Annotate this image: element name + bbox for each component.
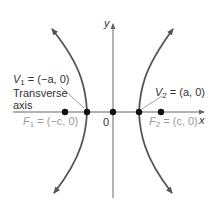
transverse-axis-label-line2: axis <box>13 99 33 111</box>
f1-label: F1 = (−c, 0) <box>23 115 78 129</box>
origin-label: 0 <box>103 116 109 128</box>
vertex-v1-point <box>84 109 90 115</box>
hyperbola-left-branch-upper <box>52 29 87 112</box>
x-axis-label: x <box>198 114 205 126</box>
v2-label: V2 = (a, 0) <box>155 86 205 100</box>
y-axis-label: y <box>103 17 111 29</box>
v1-label: V1 = (−a, 0) <box>13 73 69 87</box>
transverse-axis-label-line1: Transverse <box>13 87 68 99</box>
f2-label: F2 = (c, 0) <box>149 115 198 129</box>
origin-point <box>110 109 116 115</box>
vertex-v2-point <box>136 109 142 115</box>
hyperbola-diagram: y x 0 V1 = (−a, 0) Transverse axis V2 = … <box>0 0 217 201</box>
